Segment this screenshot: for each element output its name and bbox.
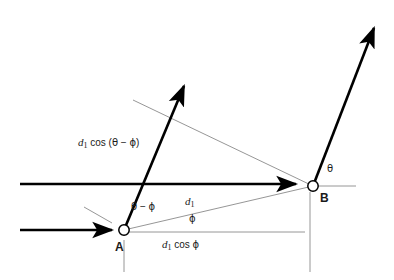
label-d1-cos-phi: d1 cos ϕ bbox=[162, 239, 199, 252]
cos-operator: cos ( bbox=[90, 137, 112, 148]
label-theta-angle: θ bbox=[327, 164, 333, 174]
subscript-1: 1 bbox=[191, 200, 195, 209]
label-point-a: A bbox=[115, 241, 124, 253]
label-theta-minus-phi: θ − ϕ bbox=[131, 201, 155, 212]
point-marker-b bbox=[308, 181, 318, 191]
phi-symbol: ϕ bbox=[193, 239, 200, 250]
minus-operator: − bbox=[118, 137, 129, 148]
subscript-1: 1 bbox=[84, 141, 88, 150]
cos-operator: cos bbox=[174, 239, 192, 250]
label-point-b: B bbox=[320, 192, 329, 204]
subscript-1: 1 bbox=[168, 243, 172, 252]
wavefront-tick-at-a bbox=[84, 207, 112, 223]
geometry-diagram bbox=[0, 0, 394, 280]
minus-operator: − bbox=[137, 201, 148, 212]
label-d1-cos-theta-minus-phi: d1 cos (θ − ϕ) bbox=[78, 137, 139, 150]
phi-symbol: ϕ bbox=[149, 201, 156, 212]
close-paren: ) bbox=[136, 137, 139, 148]
point-marker-a bbox=[119, 225, 129, 235]
scattered-ray-from-b bbox=[313, 28, 374, 186]
label-phi-angle: ϕ bbox=[189, 214, 196, 224]
figure-canvas: d1 cos (θ − ϕ) d1 d1 cos ϕ θ − ϕ ϕ θ A B bbox=[0, 0, 394, 280]
label-d1: d1 bbox=[185, 196, 195, 209]
